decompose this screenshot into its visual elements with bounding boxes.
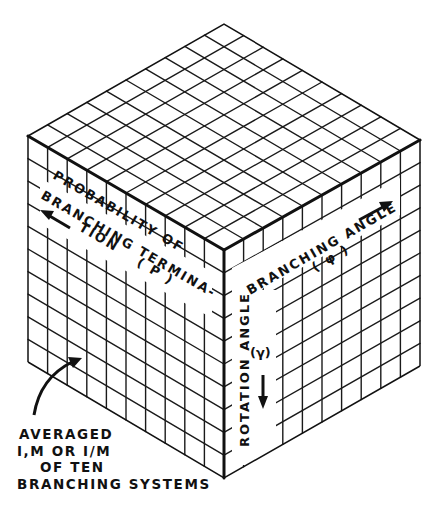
caption-line1: AVERAGED: [19, 426, 113, 442]
rotation-label-line1: ROTATION ANGLE: [237, 292, 252, 447]
rotation-label-symbol: (γ): [250, 345, 271, 360]
cube-diagram: PROBABILITY OF BRANCHING TERMINA- TION (…: [0, 0, 441, 519]
caption: AVERAGED I,M OR I/M OF TEN BRANCHING SYS…: [17, 426, 211, 492]
grid-line: [146, 94, 342, 205]
caption-line3: OF TEN: [40, 459, 105, 475]
caption-line4: BRANCHING SYSTEMS: [17, 476, 211, 492]
cube-svg: PROBABILITY OF BRANCHING TERMINA- TION (…: [0, 0, 441, 519]
grid-line: [146, 69, 342, 184]
caption-line2: I,M OR I/M: [17, 443, 111, 459]
grid-line: [204, 35, 400, 151]
grid-line: [165, 105, 361, 216]
left-label-line2: BRANCHING TERMINA-: [39, 188, 220, 301]
curved-arrow-up-right-icon: [34, 357, 82, 415]
grid-line: [126, 82, 322, 193]
grid-line: [185, 46, 381, 162]
grid-line: [165, 58, 361, 173]
